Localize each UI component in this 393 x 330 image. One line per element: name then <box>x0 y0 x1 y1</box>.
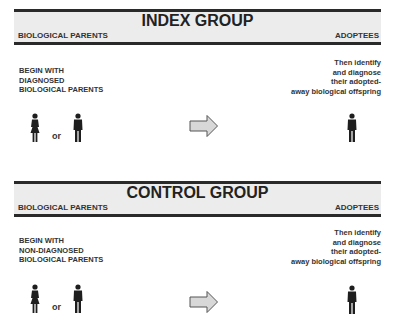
or-label: or <box>52 131 61 141</box>
biological-parents-label: BIOLOGICAL PARENTS <box>18 31 108 40</box>
male-figure-icon <box>72 284 84 314</box>
adoptees-label: ADOPTEES <box>335 203 379 212</box>
index-right-description: Then identify and diagnose their adopted… <box>291 58 381 96</box>
right-arrow-icon <box>189 290 219 314</box>
control-group-header: CONTROL GROUP BIOLOGICAL PARENTS ADOPTEE… <box>14 181 381 217</box>
adoptee-figure-icon <box>346 113 358 143</box>
index-group-header: INDEX GROUP BIOLOGICAL PARENTS ADOPTEES <box>14 9 381 45</box>
adoptees-label: ADOPTEES <box>335 31 379 40</box>
right-arrow-icon <box>189 114 219 138</box>
female-figure-icon <box>29 113 41 143</box>
adoptee-figure-icon <box>346 285 358 315</box>
control-right-description: Then identify and diagnose their adopted… <box>291 228 381 266</box>
male-figure-icon <box>72 113 84 143</box>
biological-parents-label: BIOLOGICAL PARENTS <box>18 203 108 212</box>
female-figure-icon <box>29 284 41 314</box>
index-left-description: BEGIN WITH DIAGNOSED BIOLOGICAL PARENTS <box>19 66 103 95</box>
or-label: or <box>52 302 61 312</box>
index-group-title: INDEX GROUP <box>14 12 381 30</box>
control-left-description: BEGIN WITH NON-DIAGNOSED BIOLOGICAL PARE… <box>19 236 103 265</box>
control-group-title: CONTROL GROUP <box>14 184 381 202</box>
